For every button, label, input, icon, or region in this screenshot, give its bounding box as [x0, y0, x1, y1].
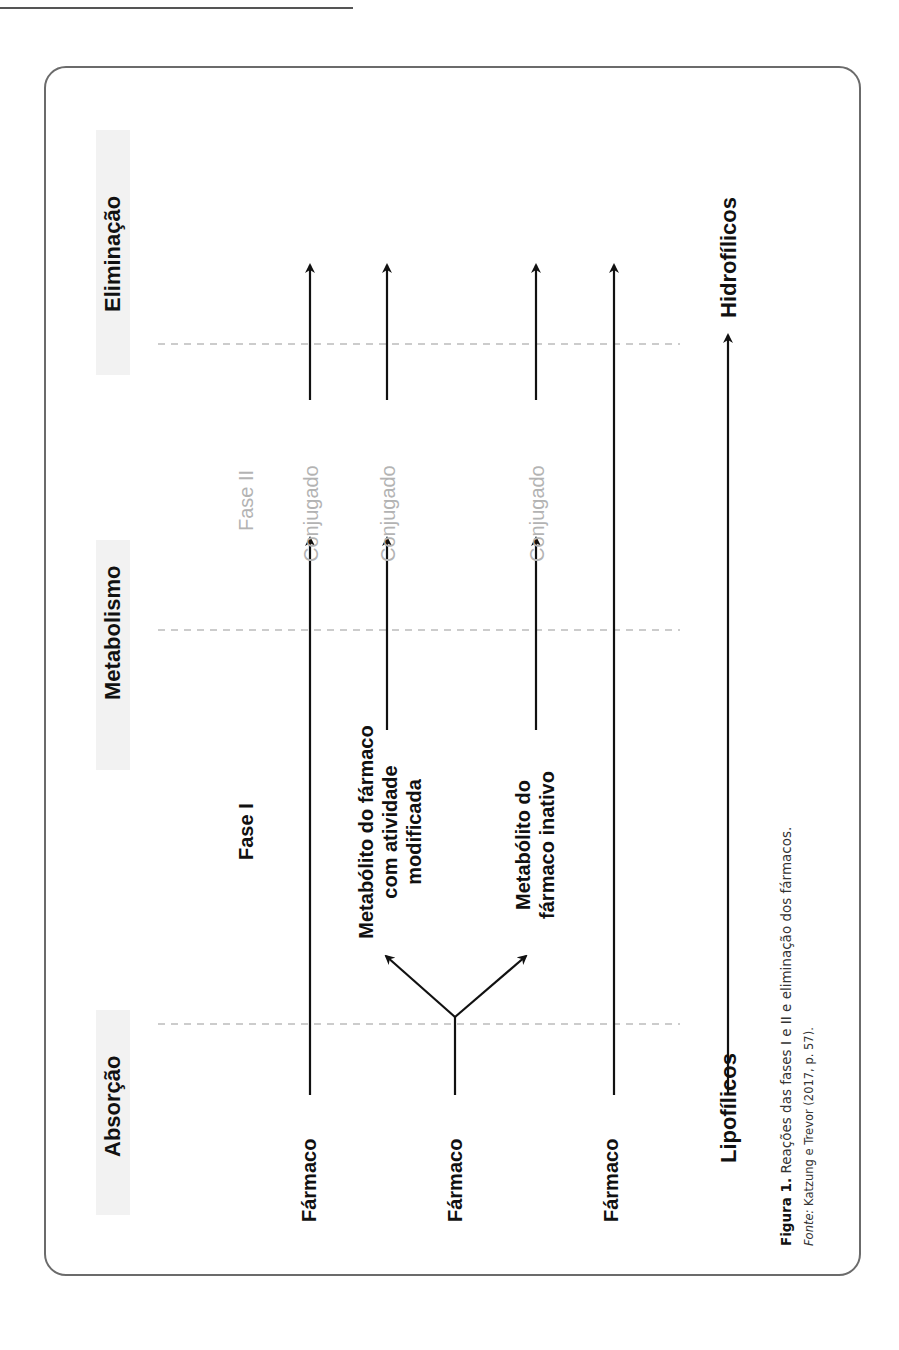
- header-absorption: Absorção: [100, 1056, 126, 1157]
- drug-row3: Fármaco: [600, 1139, 623, 1222]
- metabolite-active-label: Metabólito do fármaco com atividade modi…: [354, 714, 426, 950]
- hydrophilic-label: Hidrofílicos: [716, 197, 742, 318]
- caption-text: Reações das fases I e II e eliminação do…: [778, 827, 794, 1178]
- metabolite-active-line3: modificada: [402, 714, 426, 950]
- source-text: Katzung e Trevor (2017, p. 57).: [802, 1027, 816, 1209]
- conjugate-row1: Conjugado: [300, 465, 323, 562]
- drug-row1: Fármaco: [298, 1139, 321, 1222]
- phase1-label: Fase I: [235, 803, 258, 860]
- header-metabolism: Metabolismo: [100, 566, 126, 700]
- metabolite-inactive-line2: fármaco inativo: [535, 745, 559, 945]
- caption-label: Figura 1.: [778, 1178, 794, 1246]
- metabolite-inactive-line1: Metabólito do: [511, 745, 535, 945]
- figure-source: Fonte: Katzung e Trevor (2017, p. 57).: [802, 1027, 816, 1246]
- conjugate-row2-active: Conjugado: [377, 465, 400, 562]
- figure-caption: Figura 1. Reações das fases I e II e eli…: [778, 827, 794, 1246]
- metabolite-active-line1: Metabólito do fármaco: [354, 714, 378, 950]
- conjugate-row2-inactive: Conjugado: [526, 465, 549, 562]
- metabolite-active-line2: com atividade: [378, 714, 402, 950]
- phase2-label: Fase II: [235, 470, 258, 531]
- metabolite-inactive-label: Metabólito do fármaco inativo: [511, 745, 559, 945]
- lipophilic-label: Lipofílicos: [716, 1053, 742, 1163]
- drug-row2: Fármaco: [444, 1139, 467, 1222]
- header-elimination: Eliminação: [100, 196, 126, 312]
- source-label: Fonte:: [802, 1210, 816, 1246]
